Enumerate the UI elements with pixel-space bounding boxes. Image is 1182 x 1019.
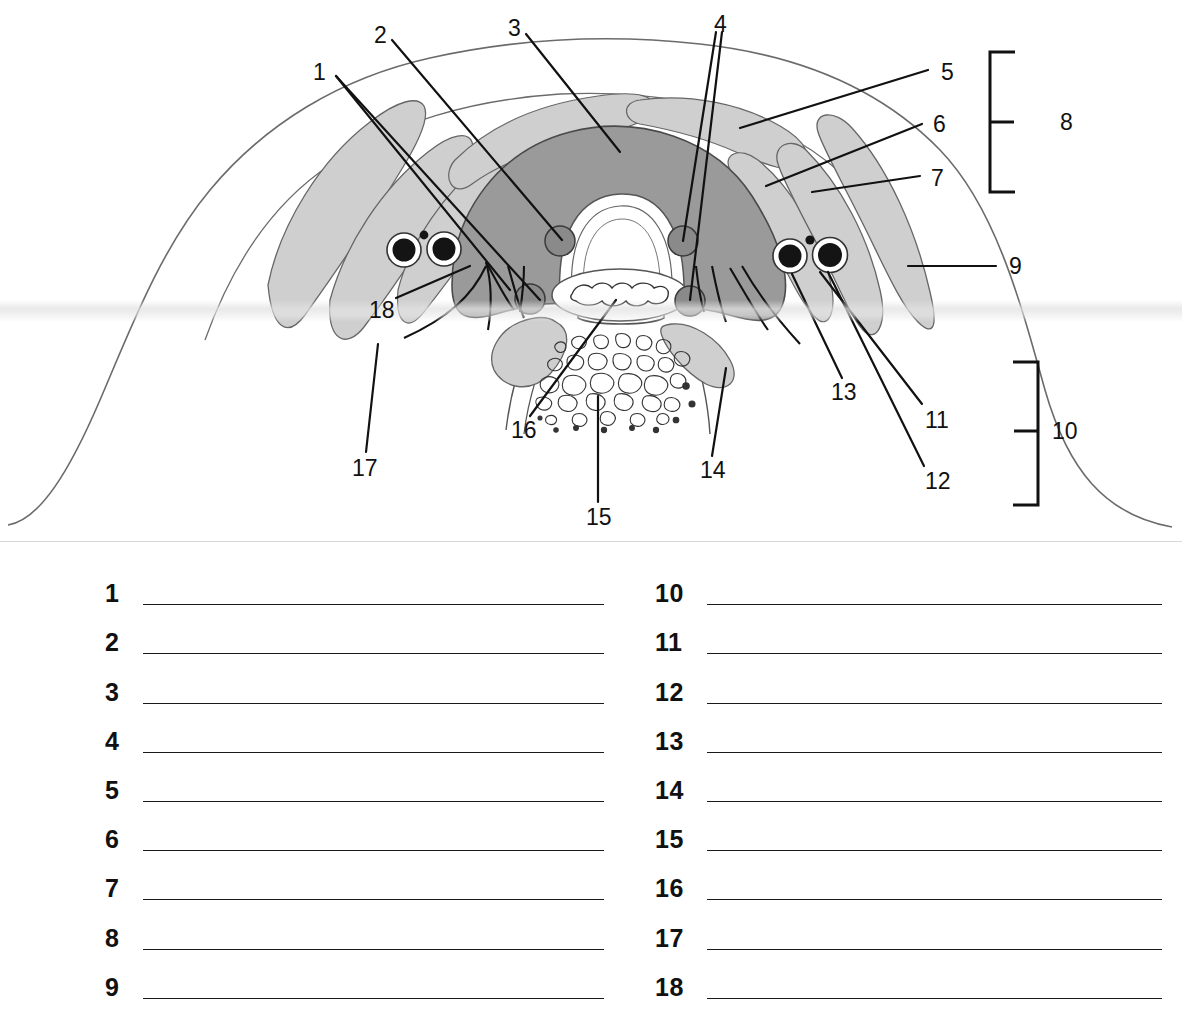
- answer-row[interactable]: 15: [655, 806, 1162, 855]
- figure-label-15: 15: [586, 506, 612, 529]
- answer-number: 18: [655, 975, 707, 1003]
- answer-blank-line[interactable]: [143, 801, 604, 802]
- figure-label-2: 2: [374, 24, 387, 47]
- figure-panel: 1 2 3 4 5 6 7 8 9 10 11 12 13 14 15 16 1…: [0, 0, 1182, 545]
- figure-label-8: 8: [1060, 111, 1073, 134]
- answer-blank-line[interactable]: [143, 899, 604, 900]
- figure-label-13: 13: [831, 381, 857, 404]
- answer-row[interactable]: 7: [105, 855, 604, 904]
- figure-label-18: 18: [369, 299, 395, 322]
- figure-label-12: 12: [925, 470, 951, 493]
- answer-column-left: 1 2 3 4 5 6 7 8: [105, 560, 604, 1003]
- figure-label-10: 10: [1052, 420, 1078, 443]
- answer-row[interactable]: 11: [655, 609, 1162, 658]
- vertebral-body: [552, 269, 688, 321]
- answer-number: 2: [105, 630, 143, 658]
- figure-label-11: 11: [925, 409, 949, 432]
- answer-blank-line[interactable]: [707, 653, 1162, 654]
- answer-number: 5: [105, 778, 143, 806]
- answer-blank-line[interactable]: [143, 752, 604, 753]
- answer-number: 14: [655, 778, 707, 806]
- answer-number: 15: [655, 827, 707, 855]
- figure-label-1: 1: [313, 61, 326, 84]
- answer-number: 8: [105, 926, 143, 954]
- bracket-8: [990, 52, 1015, 192]
- answer-number: 6: [105, 827, 143, 855]
- answer-row[interactable]: 10: [655, 560, 1162, 609]
- answer-number: 3: [105, 680, 143, 708]
- answer-number: 16: [655, 876, 707, 904]
- answer-blank-line[interactable]: [707, 899, 1162, 900]
- figure-label-5: 5: [941, 61, 954, 84]
- answer-blank-line[interactable]: [143, 949, 604, 950]
- answer-blank-line[interactable]: [707, 703, 1162, 704]
- bracket-10: [1013, 362, 1038, 505]
- figure-label-3: 3: [508, 17, 521, 40]
- answer-blank-line[interactable]: [707, 949, 1162, 950]
- answer-row[interactable]: 17: [655, 904, 1162, 953]
- answer-row[interactable]: 1: [105, 560, 604, 609]
- answer-blank-line[interactable]: [143, 998, 604, 999]
- answer-row[interactable]: 8: [105, 904, 604, 953]
- figure-divider: [0, 541, 1182, 542]
- figure-label-17: 17: [352, 457, 378, 480]
- answer-row[interactable]: 13: [655, 708, 1162, 757]
- answer-lines-panel: 1 2 3 4 5 6 7 8: [0, 560, 1182, 1019]
- answer-number: 12: [655, 680, 707, 708]
- answer-row[interactable]: 9: [105, 954, 604, 1003]
- answer-row[interactable]: 3: [105, 658, 604, 707]
- answer-number: 9: [105, 975, 143, 1003]
- figure-label-4: 4: [714, 13, 727, 36]
- answer-blank-line[interactable]: [143, 604, 604, 605]
- answer-number: 4: [105, 729, 143, 757]
- answer-row[interactable]: 16: [655, 855, 1162, 904]
- figure-label-14: 14: [700, 459, 726, 482]
- answer-row[interactable]: 12: [655, 658, 1162, 707]
- answer-blank-line[interactable]: [707, 801, 1162, 802]
- answer-number: 13: [655, 729, 707, 757]
- answer-blank-line[interactable]: [143, 850, 604, 851]
- answer-row[interactable]: 4: [105, 708, 604, 757]
- answer-blank-line[interactable]: [707, 752, 1162, 753]
- figure-label-9: 9: [1009, 255, 1022, 278]
- answer-blank-line[interactable]: [707, 604, 1162, 605]
- figure-label-16: 16: [511, 419, 537, 442]
- answer-row[interactable]: 18: [655, 954, 1162, 1003]
- answer-number: 7: [105, 876, 143, 904]
- answer-blank-line[interactable]: [143, 703, 604, 704]
- anatomy-diagram: [0, 0, 1182, 545]
- answer-blank-line[interactable]: [707, 850, 1162, 851]
- answer-blank-line[interactable]: [707, 998, 1162, 999]
- figure-label-7: 7: [931, 167, 944, 190]
- answer-number: 10: [655, 581, 707, 609]
- answer-row[interactable]: 2: [105, 609, 604, 658]
- answer-row[interactable]: 6: [105, 806, 604, 855]
- prevertebral-muscles: [492, 318, 734, 388]
- answer-row[interactable]: 14: [655, 757, 1162, 806]
- figure-label-6: 6: [933, 113, 946, 136]
- answer-number: 17: [655, 926, 707, 954]
- answer-row[interactable]: 5: [105, 757, 604, 806]
- answer-blank-line[interactable]: [143, 653, 604, 654]
- answer-number: 11: [655, 630, 707, 658]
- answer-number: 1: [105, 581, 143, 609]
- answer-column-right: 10 11 12 13 14 15 16 17: [655, 560, 1162, 1003]
